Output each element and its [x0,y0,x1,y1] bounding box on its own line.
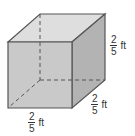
depth-numerator: 2 [91,94,99,103]
width-denominator: 5 [28,124,36,133]
height-denominator: 5 [110,47,118,56]
height-numerator: 2 [110,35,118,44]
height-unit: ft [121,40,127,51]
width-label: 2 5 ft [28,112,44,133]
width-numerator: 2 [28,112,36,121]
width-unit: ft [39,117,45,128]
cube-diagram [0,0,135,136]
depth-unit: ft [102,99,108,110]
height-label: 2 5 ft [110,35,126,56]
depth-denominator: 5 [91,106,99,115]
depth-label: 2 5 ft [91,94,107,115]
